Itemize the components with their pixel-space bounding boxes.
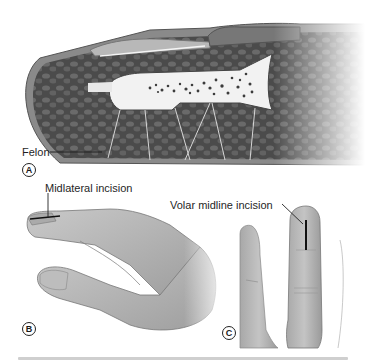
felon-label: Felon: [22, 146, 50, 159]
figure-caption: [18, 357, 348, 360]
midlateral-incision-label: Midlateral incision: [45, 182, 132, 195]
panel-letter-a: A: [22, 163, 36, 177]
panel-letter-b: B: [22, 322, 36, 336]
fingertip-section-illustration: [0, 0, 365, 185]
volar-midline-incision-label: Volar midline incision: [170, 199, 273, 212]
panel-letter-c: C: [222, 326, 236, 340]
panel-a: Felon A: [0, 0, 365, 185]
